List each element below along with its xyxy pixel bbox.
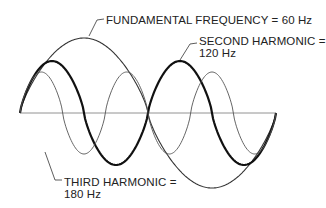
second-harmonic-label-line2: 120 Hz xyxy=(199,47,326,59)
second-harmonic-label-line1: SECOND HARMONIC = xyxy=(199,35,326,47)
fundamental-frequency-label: FUNDAMENTAL FREQUENCY = 60 Hz xyxy=(106,14,312,26)
second-harmonic-leader-line xyxy=(180,43,197,60)
fundamental-leader-line xyxy=(89,19,104,36)
third-harmonic-label: THIRD HARMONIC = 180 Hz xyxy=(64,176,176,200)
third-harmonic-label-line1: THIRD HARMONIC = xyxy=(64,176,176,188)
second-harmonic-label: SECOND HARMONIC = 120 Hz xyxy=(199,35,326,59)
fundamental-label-text: FUNDAMENTAL FREQUENCY = 60 Hz xyxy=(106,14,312,26)
third-harmonic-label-line2: 180 Hz xyxy=(64,188,176,200)
third-harmonic-leader-line xyxy=(45,152,62,180)
